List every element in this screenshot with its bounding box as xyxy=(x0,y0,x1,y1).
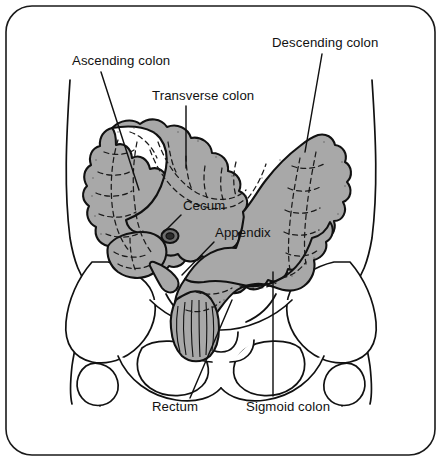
colon-anatomy-figure: Ascending colon Transverse colon Descend… xyxy=(0,0,441,461)
label-rectum: Rectum xyxy=(152,400,198,413)
label-appendix: Appendix xyxy=(215,226,271,239)
label-transverse-colon: Transverse colon xyxy=(152,89,254,102)
label-ascending-colon: Ascending colon xyxy=(72,54,170,67)
label-sigmoid-colon: Sigmoid colon xyxy=(246,400,330,413)
label-cecum: Cecum xyxy=(183,199,225,212)
label-descending-colon: Descending colon xyxy=(272,36,378,49)
